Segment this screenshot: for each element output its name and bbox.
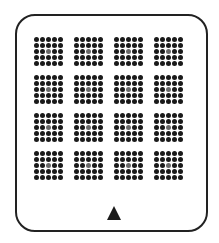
dot bbox=[172, 55, 177, 60]
dot bbox=[40, 87, 45, 92]
dot-group[interactable] bbox=[114, 37, 144, 67]
dot bbox=[120, 157, 125, 162]
dot bbox=[138, 125, 143, 130]
dot bbox=[98, 49, 103, 54]
dot bbox=[74, 43, 79, 48]
dot bbox=[160, 175, 165, 180]
dot bbox=[58, 125, 63, 130]
dot bbox=[166, 151, 171, 156]
dot bbox=[120, 163, 125, 168]
dot bbox=[138, 157, 143, 162]
dot bbox=[154, 169, 159, 174]
dot bbox=[58, 175, 63, 180]
dot bbox=[166, 99, 171, 104]
dot bbox=[166, 61, 171, 66]
dot bbox=[98, 61, 103, 66]
dot bbox=[126, 75, 131, 80]
dot bbox=[86, 75, 91, 80]
dot bbox=[178, 55, 183, 60]
dot bbox=[120, 93, 125, 98]
dot bbox=[160, 99, 165, 104]
up-triangle-icon[interactable] bbox=[107, 206, 121, 220]
dot bbox=[138, 43, 143, 48]
dot bbox=[46, 43, 51, 48]
dot-group[interactable] bbox=[114, 75, 144, 105]
dot bbox=[114, 175, 119, 180]
dot-group[interactable] bbox=[154, 113, 184, 143]
dot-group[interactable] bbox=[34, 151, 64, 181]
dot bbox=[80, 93, 85, 98]
dot bbox=[160, 49, 165, 54]
dot bbox=[172, 137, 177, 142]
dot bbox=[160, 137, 165, 142]
dot-group[interactable] bbox=[74, 151, 104, 181]
dot bbox=[74, 169, 79, 174]
dot-group[interactable] bbox=[114, 151, 144, 181]
dot bbox=[114, 113, 119, 118]
dot bbox=[120, 87, 125, 92]
dot bbox=[172, 37, 177, 42]
dot bbox=[92, 49, 97, 54]
dot bbox=[166, 75, 171, 80]
dot-group[interactable] bbox=[74, 75, 104, 105]
dot bbox=[126, 131, 131, 136]
dot bbox=[138, 137, 143, 142]
dot bbox=[74, 125, 79, 130]
dot bbox=[154, 81, 159, 86]
dot-group[interactable] bbox=[154, 151, 184, 181]
dot-group[interactable] bbox=[154, 37, 184, 67]
dot bbox=[34, 43, 39, 48]
dot bbox=[120, 37, 125, 42]
dot bbox=[154, 175, 159, 180]
dot-group[interactable] bbox=[154, 75, 184, 105]
dot-group[interactable] bbox=[114, 113, 144, 143]
dot bbox=[52, 119, 57, 124]
dot bbox=[58, 93, 63, 98]
dot bbox=[166, 37, 171, 42]
dot-group[interactable] bbox=[74, 113, 104, 143]
dot bbox=[74, 119, 79, 124]
dot-group[interactable] bbox=[34, 113, 64, 143]
dot bbox=[160, 75, 165, 80]
dot bbox=[120, 49, 125, 54]
dot bbox=[126, 93, 131, 98]
dot bbox=[172, 99, 177, 104]
dot bbox=[172, 125, 177, 130]
dot bbox=[132, 75, 137, 80]
dot bbox=[132, 93, 137, 98]
dot bbox=[40, 55, 45, 60]
dot bbox=[98, 169, 103, 174]
dot-group[interactable] bbox=[34, 37, 64, 67]
dot bbox=[120, 125, 125, 130]
dot bbox=[120, 55, 125, 60]
dot bbox=[178, 43, 183, 48]
dot bbox=[52, 75, 57, 80]
dot bbox=[52, 81, 57, 86]
dot bbox=[58, 43, 63, 48]
dot bbox=[178, 99, 183, 104]
dot bbox=[172, 75, 177, 80]
dot bbox=[34, 37, 39, 42]
dot bbox=[92, 43, 97, 48]
dot bbox=[58, 131, 63, 136]
dot-group[interactable] bbox=[74, 37, 104, 67]
dot bbox=[58, 113, 63, 118]
dot bbox=[74, 175, 79, 180]
dot bbox=[160, 131, 165, 136]
dot bbox=[52, 113, 57, 118]
dot bbox=[86, 137, 91, 142]
dot bbox=[74, 81, 79, 86]
dot bbox=[126, 175, 131, 180]
dot bbox=[172, 93, 177, 98]
dot bbox=[160, 93, 165, 98]
dot bbox=[178, 137, 183, 142]
dot bbox=[138, 81, 143, 86]
dot bbox=[46, 37, 51, 42]
dot-group[interactable] bbox=[34, 75, 64, 105]
dot bbox=[132, 175, 137, 180]
dot bbox=[172, 119, 177, 124]
dot bbox=[132, 99, 137, 104]
dot bbox=[154, 87, 159, 92]
dot bbox=[154, 93, 159, 98]
dot bbox=[120, 99, 125, 104]
